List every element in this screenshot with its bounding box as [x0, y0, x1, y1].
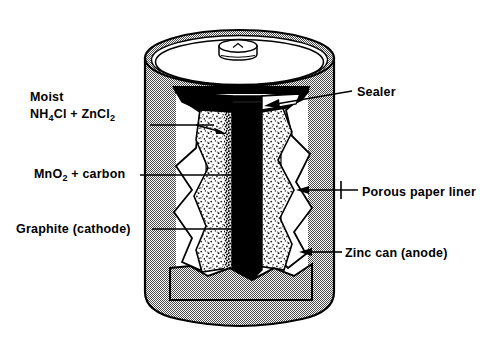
- cutaway-top-edge: [172, 86, 310, 94]
- label-zinc-can-anode: Zinc can (anode): [345, 245, 448, 262]
- label-porous-paper-liner: Porous paper liner: [362, 184, 476, 201]
- label-moist-nh: NH: [30, 107, 48, 121]
- battery-cutaway-figure: Moist NH4Cl + ZnCl2 MnO2 + carbon Graphi…: [0, 0, 482, 346]
- label-mno2-a: MnO: [34, 167, 62, 181]
- terminal-cap: [219, 40, 257, 60]
- label-mno2-b: + carbon: [68, 167, 126, 181]
- label-moist-formula: NH4Cl + ZnCl2: [30, 106, 115, 124]
- label-graphite-cathode: Graphite (cathode): [16, 221, 131, 238]
- label-moist-sub2: 2: [110, 112, 115, 122]
- graphite-rod: [232, 96, 262, 280]
- label-moist-electrolyte: Moist NH4Cl + ZnCl2: [30, 89, 115, 124]
- label-moist-line1: Moist: [30, 90, 64, 104]
- label-sealer: Sealer: [357, 84, 396, 101]
- label-mno2-carbon: MnO2 + carbon: [34, 166, 125, 184]
- label-moist-mid: Cl + ZnCl: [54, 107, 110, 121]
